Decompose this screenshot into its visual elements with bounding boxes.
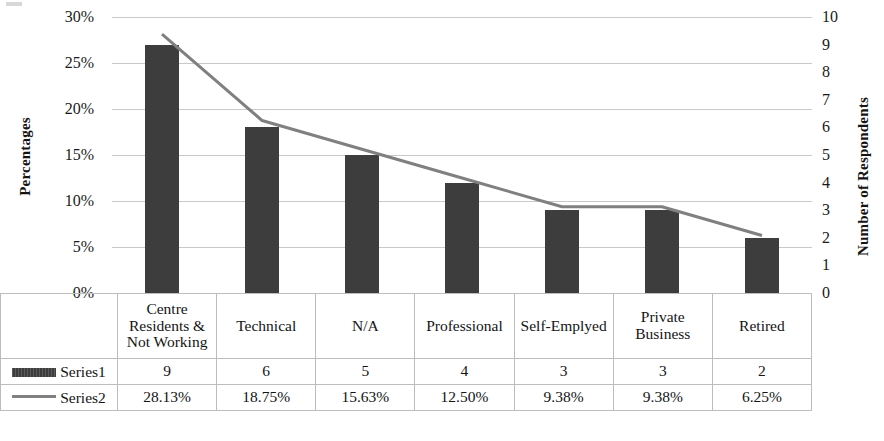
table-row: Series228.13%18.75%15.63%12.50%9.38%9.38… [1, 385, 812, 411]
legend-spacer-cell [1, 294, 118, 359]
y-axis-right-tick-label: 7 [822, 92, 872, 108]
y-axis-right-tick-label: 5 [822, 147, 872, 163]
data-cell: 6.25% [712, 385, 811, 411]
chart-container: Percentages Number of Respondents 0%5%10… [0, 0, 884, 441]
category-label-cell: Private Business [613, 294, 712, 359]
legend-label: Series2 [60, 389, 106, 406]
category-label-cell: Self-Emplyed [514, 294, 613, 359]
y-axis-left-tick-label: 5% [24, 239, 94, 255]
data-cell: 28.13% [118, 385, 217, 411]
legend-item[interactable]: Series2 [1, 385, 118, 411]
data-cell: 4 [415, 359, 514, 385]
category-label-cell: Retired [712, 294, 811, 359]
data-table-wrap: Centre Residents & Not WorkingTechnicalN… [0, 293, 884, 433]
y-axis-right-tick-label: 8 [822, 64, 872, 80]
plot-area [112, 17, 812, 293]
y-axis-right-tick-label: 4 [822, 175, 872, 191]
data-cell: 9.38% [613, 385, 712, 411]
category-label-cell: Centre Residents & Not Working [118, 294, 217, 359]
legend-label: Series1 [60, 363, 106, 380]
y-axis-right-tick-label: 3 [822, 202, 872, 218]
data-cell: 9 [118, 359, 217, 385]
data-cell: 18.75% [217, 385, 316, 411]
y-axis-left-tick-label: 20% [24, 101, 94, 117]
table-row: Series19654332 [1, 359, 812, 385]
y-axis-right-tick-label: 2 [822, 230, 872, 246]
data-cell: 2 [712, 359, 811, 385]
y-axis-right-tick-label: 1 [822, 257, 872, 273]
data-table: Centre Residents & Not WorkingTechnicalN… [0, 293, 812, 411]
legend-bar-swatch-icon [12, 368, 56, 377]
data-cell: 3 [514, 359, 613, 385]
data-cell: 12.50% [415, 385, 514, 411]
category-label-cell: N/A [316, 294, 415, 359]
y-axis-left-tick-label: 15% [24, 147, 94, 163]
data-cell: 15.63% [316, 385, 415, 411]
category-label-cell: Technical [217, 294, 316, 359]
data-cell: 9.38% [514, 385, 613, 411]
data-cell: 5 [316, 359, 415, 385]
data-cell: 6 [217, 359, 316, 385]
data-cell: 3 [613, 359, 712, 385]
y-axis-right-tick-label: 9 [822, 37, 872, 53]
table-row-categories: Centre Residents & Not WorkingTechnicalN… [1, 294, 812, 359]
line-series-series2 [112, 17, 812, 293]
legend-item[interactable]: Series1 [1, 359, 118, 385]
line-series-path [162, 34, 762, 235]
scan-artifact [6, 2, 22, 6]
y-axis-right-tick-label: 6 [822, 119, 872, 135]
y-axis-left-tick-label: 10% [24, 193, 94, 209]
legend-line-swatch-icon [12, 395, 56, 398]
y-axis-left-tick-label: 30% [24, 9, 94, 25]
y-axis-left-tick-label: 25% [24, 55, 94, 71]
category-label-cell: Professional [415, 294, 514, 359]
y-axis-right-tick-label: 10 [822, 9, 872, 25]
